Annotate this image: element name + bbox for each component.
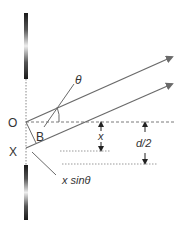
label-point-b: B xyxy=(36,130,44,144)
label-half-d: d/2 xyxy=(136,137,151,149)
label-origin: O xyxy=(8,116,17,130)
ray-from-o xyxy=(26,57,172,122)
theta-arc xyxy=(57,107,59,122)
slit-barrier-bottom xyxy=(24,165,28,220)
label-x: x xyxy=(97,130,104,142)
label-theta: θ xyxy=(75,73,82,87)
slit-barrier-top xyxy=(24,13,28,79)
path-diff-pointer xyxy=(32,152,56,175)
label-path-difference: x sinθ xyxy=(61,174,91,186)
double-slit-diagram: O X B θ x d/2 x sinθ xyxy=(0,0,188,233)
perpendicular-ob xyxy=(26,122,36,143)
label-point-x: X xyxy=(9,145,17,159)
